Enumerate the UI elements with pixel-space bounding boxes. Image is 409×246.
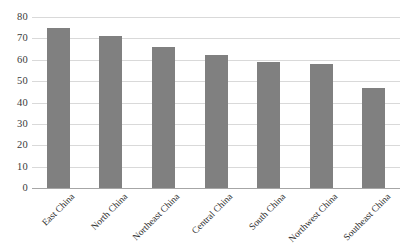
y-tick-label: 70 [2,33,28,44]
y-tick-label: 50 [2,76,28,87]
bar [205,55,228,188]
x-axis-label: Northwest China [285,190,338,243]
y-tick-label: 60 [2,55,28,66]
x-axis-label-text: Northwest China [287,191,340,244]
x-axis-label: North China [87,190,128,231]
bar [152,47,175,188]
y-tick-label: 40 [2,97,28,108]
bar [99,36,122,188]
x-axis-label: Central China [189,190,234,235]
x-axis-label: Northeast China [130,190,181,241]
y-tick-label: 20 [2,140,28,151]
x-axis-category-labels: East ChinaNorth ChinaNortheast ChinaCent… [32,190,400,246]
x-axis-line [32,188,400,189]
bar-chart: 80 70 60 50 40 30 20 10 0 East ChinaNort… [0,0,409,246]
bar [47,28,70,188]
x-axis-label-text: North China [89,191,130,232]
x-axis-label-text: East China [40,191,77,228]
y-tick-label: 0 [2,183,28,194]
y-axis-tick-labels: 80 70 60 50 40 30 20 10 0 [0,17,28,188]
bar [310,64,333,188]
y-tick-label: 30 [2,119,28,130]
y-tick-label: 80 [2,12,28,23]
plot-area [32,17,400,188]
x-axis-label-text: Northeast China [131,191,182,242]
x-axis-label-text: Central China [190,191,235,236]
x-axis-label: Southeast China [340,190,391,241]
bars [32,17,400,188]
x-axis-label: East China [39,190,76,227]
x-axis-label-text: South China [247,191,288,232]
x-axis-label-text: Southeast China [341,191,392,242]
bar [257,62,280,188]
bar [362,88,385,188]
x-axis-label: South China [245,190,286,231]
y-tick-label: 10 [2,161,28,172]
